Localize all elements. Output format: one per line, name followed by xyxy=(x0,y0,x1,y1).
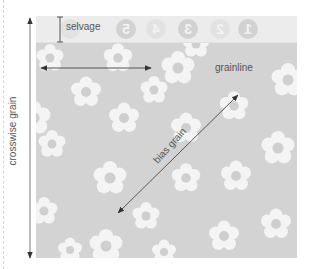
grainline-label: grainline xyxy=(215,62,253,73)
crosswise-grain-label: crosswise grain xyxy=(7,106,18,166)
bias-grain-arrow xyxy=(118,95,238,213)
selvage-width-marker xyxy=(57,17,63,42)
selvage-label: selvage xyxy=(66,21,100,32)
grain-arrows xyxy=(0,0,313,269)
